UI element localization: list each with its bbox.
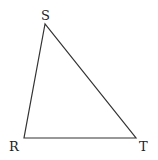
vertex-label-t: T xyxy=(139,139,148,154)
vertex-label-r: R xyxy=(9,139,20,154)
triangle-diagram: S R T xyxy=(0,0,158,160)
vertex-label-s: S xyxy=(41,8,50,23)
triangle-rst xyxy=(24,24,136,138)
